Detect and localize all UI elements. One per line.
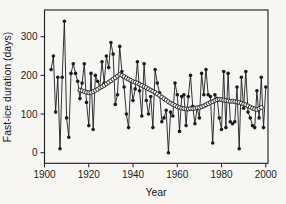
annual-data-point bbox=[182, 93, 186, 97]
annual-data-point bbox=[127, 126, 131, 130]
annual-data-point bbox=[176, 93, 180, 97]
annual-data-point bbox=[233, 120, 237, 124]
annual-data-point bbox=[204, 68, 208, 72]
annual-data-point bbox=[111, 52, 115, 56]
annual-data-point bbox=[105, 54, 109, 58]
annual-data-point bbox=[87, 124, 91, 128]
annual-data-point bbox=[224, 126, 228, 130]
annual-data-point bbox=[260, 76, 264, 80]
annual-data-point bbox=[78, 97, 82, 101]
annual-data-point bbox=[85, 101, 89, 105]
annual-data-point bbox=[257, 116, 261, 120]
x-tick-label: 1900 bbox=[33, 169, 56, 180]
annual-data-point bbox=[222, 70, 226, 74]
annual-data-point bbox=[202, 93, 206, 97]
annual-data-point bbox=[178, 130, 182, 134]
annual-data-point bbox=[173, 81, 177, 85]
plot-area: 1900192019401960198020000100200300 Fast-… bbox=[0, 0, 286, 204]
x-tick-label: 1980 bbox=[210, 169, 233, 180]
annual-data-point bbox=[118, 45, 122, 49]
annual-data-point bbox=[153, 68, 157, 72]
annual-data-point bbox=[145, 99, 149, 103]
annual-data-point bbox=[80, 81, 84, 85]
annual-data-point bbox=[264, 85, 268, 89]
annual-data-point bbox=[58, 147, 62, 151]
annual-data-point bbox=[74, 72, 78, 76]
annual-data-point bbox=[187, 95, 191, 99]
annual-data-point bbox=[262, 126, 266, 130]
x-tick-label: 1920 bbox=[78, 169, 101, 180]
y-tick-label: 200 bbox=[21, 70, 38, 81]
annual-data-point bbox=[167, 151, 171, 155]
annual-data-point bbox=[253, 126, 257, 130]
fast-ice-duration-chart: 1900192019401960198020000100200300 Fast-… bbox=[0, 0, 286, 204]
y-axis-label: Fast-ice duration (days) bbox=[1, 32, 13, 142]
annual-data-point bbox=[136, 60, 140, 64]
annual-data-point bbox=[67, 135, 71, 139]
annual-data-point bbox=[184, 124, 188, 128]
x-tick-label: 1960 bbox=[166, 169, 189, 180]
annual-data-point bbox=[140, 114, 144, 118]
annual-data-point bbox=[164, 108, 168, 112]
annual-data-point bbox=[54, 110, 58, 114]
annual-data-point bbox=[193, 122, 197, 126]
annual-data-point bbox=[114, 103, 118, 107]
annual-data-point bbox=[65, 116, 69, 120]
annual-data-point bbox=[189, 74, 193, 78]
annual-data-point bbox=[100, 60, 104, 64]
annual-data-point bbox=[116, 93, 120, 97]
annual-data-point bbox=[89, 72, 93, 76]
annual-data-point bbox=[240, 76, 244, 80]
annual-data-point bbox=[249, 116, 253, 120]
annual-data-point bbox=[52, 54, 56, 58]
annual-data-point bbox=[160, 120, 164, 124]
y-tick-label: 100 bbox=[21, 109, 38, 120]
annual-data-point bbox=[138, 89, 142, 93]
x-axis-label: Year bbox=[145, 186, 167, 198]
annual-data-point bbox=[63, 19, 67, 23]
annual-data-point bbox=[109, 41, 113, 45]
annual-data-point bbox=[76, 79, 80, 83]
annual-data-point bbox=[220, 128, 224, 132]
annual-data-point bbox=[246, 110, 250, 114]
annual-data-point bbox=[122, 85, 126, 89]
annual-data-point bbox=[60, 76, 64, 80]
annual-series-line bbox=[51, 21, 266, 153]
annual-data-point bbox=[133, 87, 137, 91]
annual-data-point bbox=[162, 116, 166, 120]
annual-data-point bbox=[211, 141, 215, 145]
annual-data-point bbox=[255, 89, 259, 93]
smoothed-data-point bbox=[259, 106, 263, 110]
annual-data-point bbox=[198, 116, 202, 120]
annual-data-point bbox=[83, 62, 87, 66]
plot-dynamic-content: 1900192019401960198020000100200300 bbox=[21, 10, 277, 180]
annual-data-point bbox=[218, 116, 222, 120]
y-tick-label: 0 bbox=[32, 147, 38, 158]
annual-data-point bbox=[147, 112, 151, 116]
annual-data-point bbox=[131, 99, 135, 103]
annual-data-point bbox=[235, 85, 239, 89]
annual-data-point bbox=[149, 95, 153, 99]
x-tick-label: 2000 bbox=[255, 169, 278, 180]
annual-data-point bbox=[156, 81, 160, 85]
annual-data-point bbox=[125, 112, 129, 116]
annual-data-point bbox=[72, 62, 76, 66]
y-tick-label: 300 bbox=[21, 31, 38, 42]
annual-data-point bbox=[213, 93, 217, 97]
annual-data-point bbox=[244, 70, 248, 74]
annual-data-point bbox=[49, 68, 53, 72]
annual-data-point bbox=[94, 74, 98, 78]
annual-data-point bbox=[209, 95, 213, 99]
annual-data-point bbox=[171, 114, 175, 118]
annual-data-point bbox=[169, 110, 173, 114]
annual-data-point bbox=[142, 62, 146, 66]
annual-data-point bbox=[107, 66, 111, 70]
annual-data-point bbox=[91, 128, 95, 132]
annual-data-point bbox=[69, 72, 73, 76]
annual-data-point bbox=[226, 72, 230, 76]
annual-data-point bbox=[237, 147, 241, 151]
annual-data-point bbox=[151, 126, 155, 130]
annual-data-point bbox=[96, 79, 100, 83]
x-tick-label: 1940 bbox=[122, 169, 145, 180]
annual-data-point bbox=[200, 72, 204, 76]
